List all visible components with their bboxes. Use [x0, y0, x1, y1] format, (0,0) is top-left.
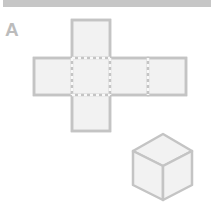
cube-diagram: [0, 0, 211, 207]
net-face-right: [110, 58, 148, 95]
net-face-center: [72, 58, 110, 95]
net-face-left: [34, 58, 72, 95]
net-face-far-right: [148, 58, 186, 95]
net-face-top: [72, 20, 110, 58]
assembled-cube: [133, 134, 192, 200]
net-face-bottom: [72, 95, 110, 131]
